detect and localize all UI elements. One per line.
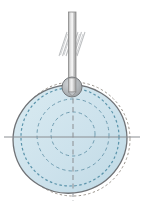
- mechanism-diagram-svg: [0, 0, 144, 209]
- rod-tip-overlay: [69, 78, 77, 96]
- diagram-canvas: [0, 0, 144, 209]
